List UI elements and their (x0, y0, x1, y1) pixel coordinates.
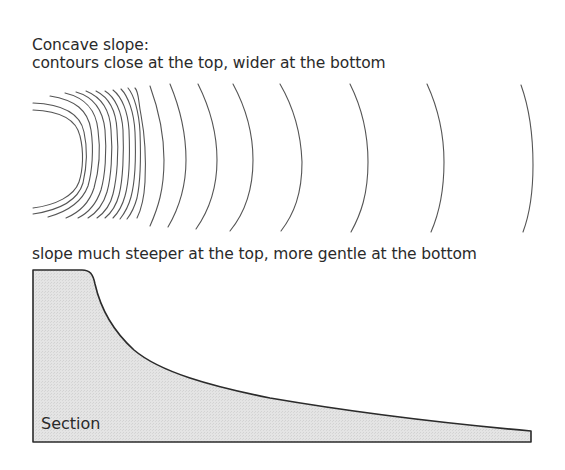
contour-lines (33, 84, 533, 232)
contour-map (0, 0, 565, 470)
section-caption: slope much steeper at the top, more gent… (32, 245, 477, 263)
section-shape (33, 270, 531, 442)
contour-line (33, 110, 83, 208)
contour-line (427, 84, 444, 232)
contour-line (280, 84, 302, 231)
contour-line (105, 91, 123, 218)
contour-line (230, 84, 253, 231)
contour-line (113, 90, 129, 218)
contour-line (350, 84, 368, 232)
contour-line (150, 86, 164, 226)
contour-line (196, 84, 217, 229)
contour-line (521, 85, 533, 232)
contour-line (120, 89, 135, 219)
contour-line (168, 84, 186, 227)
section-label: Section (41, 414, 100, 434)
contour-line (48, 96, 92, 217)
contour-line (33, 103, 86, 214)
section-profile (33, 270, 531, 442)
